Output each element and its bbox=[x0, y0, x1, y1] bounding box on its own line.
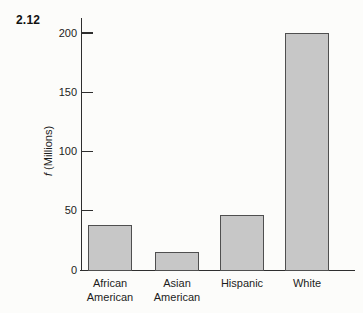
x-category-label-line: American bbox=[137, 291, 217, 305]
bar-white bbox=[285, 33, 329, 271]
bar-asian-american bbox=[155, 252, 199, 271]
y-tick-label-50: 50 bbox=[39, 205, 77, 216]
y-tick-label-100: 100 bbox=[39, 146, 77, 157]
y-tick-mark-150 bbox=[81, 92, 93, 93]
y-tick-label-0: 0 bbox=[39, 265, 77, 276]
y-axis-line bbox=[81, 18, 82, 271]
figure-2-12-bar-chart: 2.12 f (Millions) 200150100500AfricanAme… bbox=[0, 0, 363, 313]
y-tick-mark-50 bbox=[81, 210, 93, 211]
y-tick-mark-200 bbox=[81, 32, 93, 33]
y-tick-label-200: 200 bbox=[39, 28, 77, 39]
y-axis-title-f: f bbox=[42, 173, 54, 176]
y-tick-label-150: 150 bbox=[39, 87, 77, 98]
bar-hispanic bbox=[220, 215, 264, 271]
y-tick-mark-100 bbox=[81, 151, 93, 152]
x-category-label-white: White bbox=[267, 277, 347, 291]
x-category-label-line: White bbox=[267, 277, 347, 291]
bar-african-american bbox=[88, 225, 132, 271]
figure-number-label: 2.12 bbox=[16, 13, 40, 27]
